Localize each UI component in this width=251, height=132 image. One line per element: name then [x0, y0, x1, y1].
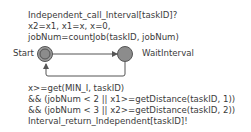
update-label: x2=x1, x1=x, x=0,: [28, 21, 111, 32]
state-label-waitinterval: WaitInterval: [142, 48, 194, 59]
state-label-start: Start: [13, 48, 34, 59]
state-start[interactable]: [38, 47, 53, 62]
update-label-2: jobNum=countJob(taskID, jobNum): [28, 32, 179, 43]
edge-waitinterval-to-start: [46, 62, 125, 76]
sync-label-return: Interval_return_Independent[taskID]!: [28, 116, 188, 127]
guard-label-3: && (jobNum < 3 || x2>=getDistance(taskID…: [28, 105, 235, 116]
sync-label: Independent_call_Interval[taskID]?: [28, 10, 177, 21]
guard-label: x>=get(MIN_I, taskID): [28, 83, 124, 94]
guard-label-2: && (jobNum < 2 || x1>=getDistance(taskID…: [28, 94, 235, 105]
state-waitinterval[interactable]: [118, 47, 133, 62]
